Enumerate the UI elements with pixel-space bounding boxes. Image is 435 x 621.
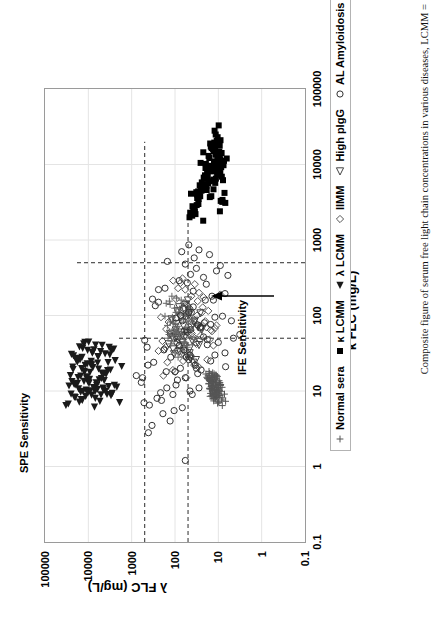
legend-item-label: High pIgG bbox=[334, 109, 346, 162]
x-tick-label: 10000 bbox=[311, 149, 323, 180]
ife-sensitivity-arrow-icon bbox=[210, 289, 276, 303]
filled-triangle-left-icon bbox=[334, 279, 346, 291]
open-diamond-icon bbox=[334, 213, 346, 225]
scatter-plot-canvas bbox=[45, 89, 305, 542]
y-axis-title: λ FLC (mg/L) bbox=[48, 580, 208, 595]
open-triangle-left-icon bbox=[334, 165, 346, 177]
legend-item-al-amyloidosis[interactable]: AL Amyloidosis bbox=[334, 3, 346, 101]
legend-item-high-pigg[interactable]: High pIgG bbox=[334, 109, 346, 177]
open-circle-icon bbox=[334, 88, 346, 100]
spe-sensitivity-label: SPE Sensitivity bbox=[18, 393, 30, 473]
x-tick-label: 10 bbox=[311, 385, 323, 397]
x-tick-label: 0.1 bbox=[311, 534, 323, 549]
legend-item-label: λ LCMM bbox=[334, 234, 346, 276]
legend-item-normal-sera[interactable]: Normal sera bbox=[334, 366, 346, 445]
series--lcmm bbox=[187, 122, 230, 223]
filled-square-icon bbox=[334, 345, 346, 357]
y-tick-label: 1 bbox=[256, 551, 268, 621]
scatter-plot-area bbox=[44, 88, 306, 543]
legend-item-label: Normal sera bbox=[334, 366, 346, 430]
x-tick-label: 100000 bbox=[311, 71, 323, 108]
x-tick-label: 1 bbox=[311, 463, 323, 469]
x-tick-label: 1000 bbox=[311, 228, 323, 252]
legend-item-label: IIMM bbox=[334, 186, 346, 210]
ife-sensitivity-label: IFE Sensitivity bbox=[236, 300, 248, 375]
legend-item-label: κ LCMM bbox=[334, 300, 346, 342]
y-tick-label: 0.1 bbox=[299, 551, 311, 621]
legend-item--lcmm[interactable]: λ LCMM bbox=[334, 234, 346, 291]
legend-item-iimm[interactable]: IIMM bbox=[334, 186, 346, 225]
plus-icon bbox=[334, 433, 346, 445]
series-normal-sera bbox=[203, 368, 230, 409]
figure-caption: Composite figure of serum free light cha… bbox=[415, 0, 435, 621]
series--lcmm bbox=[62, 339, 125, 411]
legend-item-label: AL Amyloidosis bbox=[334, 3, 346, 86]
y-tick-label: 10 bbox=[212, 551, 224, 621]
legend: Normal seraκ LCMMλ LCMMIIMMHigh pIgGAL A… bbox=[330, 0, 351, 451]
x-tick-label: 100 bbox=[311, 306, 323, 324]
legend-item--lcmm[interactable]: κ LCMM bbox=[334, 300, 346, 357]
